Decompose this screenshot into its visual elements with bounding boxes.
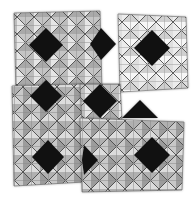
tile-center [80,84,122,122]
tile-bottom-left [12,80,84,186]
black-diamond [122,100,158,118]
tile-pattern-photo [0,0,195,202]
tile-top-right [118,14,188,92]
tile-top-left [14,11,116,94]
